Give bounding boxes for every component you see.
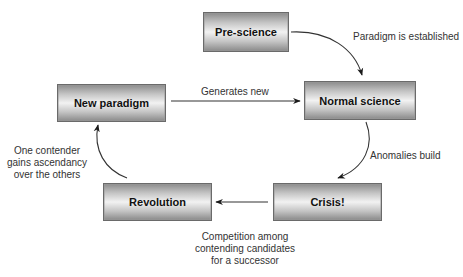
- node-crisis: Crisis!: [273, 183, 382, 221]
- node-label: Pre-science: [215, 26, 277, 38]
- edge-label-anomalies-build: Anomalies build: [370, 150, 441, 162]
- edge-label-line: gains ascendancy: [4, 157, 90, 169]
- edge-label-line: One contender: [4, 145, 90, 157]
- node-label: Normal science: [319, 95, 400, 107]
- edge-label-one-contender: One contender gains ascendancy over the …: [4, 145, 90, 181]
- node-label: New paradigm: [74, 97, 149, 109]
- node-label: Crisis!: [310, 196, 344, 208]
- node-label: Revolution: [129, 196, 186, 208]
- node-revolution: Revolution: [103, 183, 212, 221]
- edge-label-line: over the others: [4, 169, 90, 181]
- node-normal-science: Normal science: [304, 81, 416, 120]
- arrow-pre-to-normal: [291, 32, 362, 75]
- edge-label-line: for a successor: [180, 255, 310, 267]
- node-pre-science: Pre-science: [203, 12, 289, 52]
- edge-label-line: Competition among: [180, 231, 310, 243]
- edge-label-competition: Competition among contending candidates …: [180, 231, 310, 267]
- edge-label-line: contending candidates: [180, 243, 310, 255]
- node-new-paradigm: New paradigm: [57, 84, 166, 122]
- edge-label-generates-new: Generates new: [201, 86, 269, 98]
- paradigm-cycle-diagram: Pre-science Normal science Crisis! Revol…: [0, 0, 463, 277]
- edge-label-paradigm-established: Paradigm is established: [353, 31, 459, 43]
- arrow-normal-to-crisis: [338, 122, 369, 178]
- arrow-revolution-to-newparadigm: [97, 125, 127, 178]
